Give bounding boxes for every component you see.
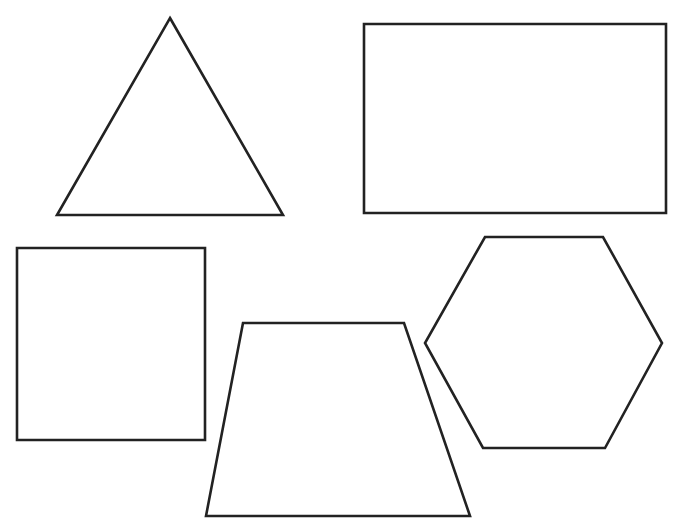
rectangle-shape bbox=[364, 24, 666, 213]
hexagon-shape bbox=[425, 237, 662, 448]
square-shape bbox=[17, 248, 205, 440]
shapes-diagram bbox=[0, 0, 678, 531]
triangle-shape bbox=[57, 18, 283, 215]
